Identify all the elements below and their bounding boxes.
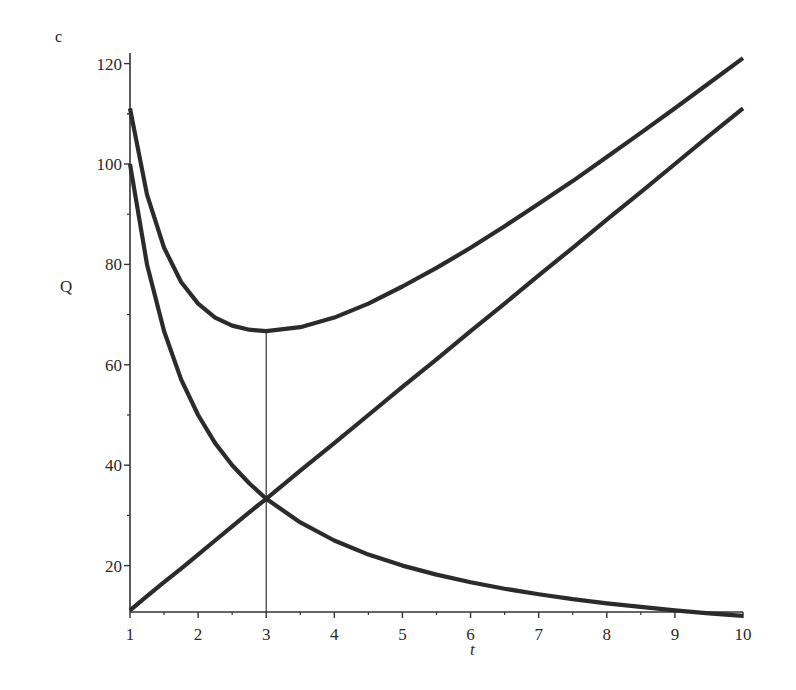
increasing-curve: [130, 108, 743, 610]
x-tick-label: 1: [126, 625, 135, 644]
curves: [130, 58, 743, 616]
line-chart: 2040608010012012345678910 t Q: [0, 0, 796, 690]
x-tick-label: 8: [603, 625, 612, 644]
y-tick-label: 100: [97, 155, 123, 174]
total-curve: [130, 58, 743, 331]
x-tick-label: 5: [398, 625, 407, 644]
x-axis-label: t: [470, 640, 476, 659]
y-tick-label: 120: [97, 55, 123, 74]
decreasing-curve: [130, 164, 743, 616]
y-axis-label: Q: [60, 277, 72, 296]
x-tick-label: 9: [671, 625, 680, 644]
x-tick-label: 10: [735, 625, 752, 644]
y-tick-label: 40: [105, 456, 122, 475]
y-tick-label: 80: [105, 255, 122, 274]
y-tick-label: 20: [105, 557, 122, 576]
x-tick-label: 4: [330, 625, 339, 644]
y-tick-label: 60: [105, 356, 122, 375]
x-tick-label: 7: [534, 625, 543, 644]
x-tick-label: 3: [262, 625, 271, 644]
x-tick-label: 2: [194, 625, 203, 644]
